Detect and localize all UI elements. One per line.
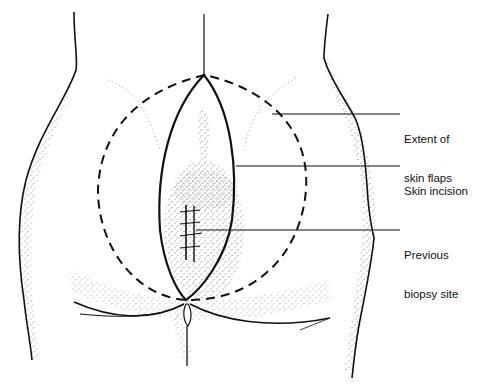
label-line: biopsy site (404, 288, 458, 301)
label-line: Previous (404, 249, 458, 262)
label-line: Skin incision (404, 185, 468, 198)
central-shading (164, 110, 244, 300)
right-hip-contour (324, 14, 376, 378)
label-line: Extent of (404, 133, 452, 146)
left-hip-contour (18, 12, 78, 360)
label-skin-incision: Skin incision (404, 159, 468, 211)
label-previous-biopsy-site: Previous biopsy site (404, 223, 458, 314)
